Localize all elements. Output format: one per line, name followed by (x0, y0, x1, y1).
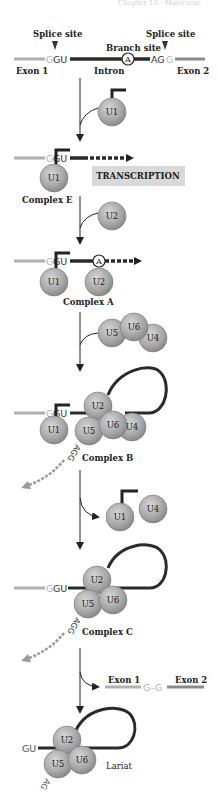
seq-gu: GU (53, 583, 67, 594)
u1-rna-tail (112, 90, 126, 98)
product-exon2-label: Exon 2 (175, 675, 207, 685)
u5-label: U5 (52, 759, 65, 769)
recruit-curve-3 (80, 333, 98, 345)
page-header-fragment: Chapter 13 · Molecular (118, 0, 201, 7)
complex-b: G GU U1 U2 U5 U4 U6 AGG Complex B (14, 368, 166, 487)
transcription-label: TRANSCRIPTION (96, 171, 180, 181)
pre-mrna: Splice site Splice site Branch site G GU… (14, 29, 209, 76)
intron-loop (108, 368, 166, 413)
u2-label: U2 (92, 401, 105, 411)
u5-label: U5 (83, 426, 96, 436)
complex-c: G GU U2 U5 U6 AGG Complex C (14, 545, 166, 660)
lariat-ag-seq: AG (39, 777, 53, 791)
splice-site-left-label: Splice site (33, 29, 83, 39)
spliceosome-assembly-diagram: Chapter 13 · Molecular Splice site Splic… (0, 0, 218, 811)
lariat-complex: GU U2 U5 U6 AG Lariat (22, 708, 135, 791)
u1-label: U1 (114, 512, 127, 522)
exon1-label: Exon 1 (16, 66, 48, 76)
splice-site-left-marker-icon (52, 41, 58, 50)
product-exon1-label: Exon 1 (108, 675, 140, 685)
branch-a-letter: A (95, 257, 102, 266)
spliced-mrna-product: Exon 1 G–G Exon 2 (105, 675, 207, 693)
seq-g-3: G (166, 54, 173, 65)
complex-c-label: Complex C (82, 627, 133, 637)
intron-label: Intron (94, 66, 124, 76)
complex-e-label: Complex E (22, 195, 73, 205)
branch-a-letter: A (124, 55, 131, 64)
u4-label: U4 (147, 504, 160, 514)
downstream-exon-arrow (24, 460, 64, 487)
lariat-label: Lariat (106, 761, 133, 771)
release-curve (80, 498, 98, 517)
u1-label: U1 (48, 277, 61, 287)
u1-label: U1 (106, 107, 119, 117)
u5-label: U5 (106, 328, 119, 338)
u1-tail (122, 491, 138, 504)
u6-label: U6 (76, 755, 89, 765)
u6-label: U6 (107, 595, 120, 605)
splice-site-right-marker-icon (162, 41, 168, 50)
u2-label: U2 (91, 575, 104, 585)
u5-label: U5 (82, 599, 95, 609)
u6-label: U6 (128, 322, 141, 332)
u1-label: U1 (48, 425, 61, 435)
seq-ag: AG (151, 54, 165, 65)
lariat-gu-seq: GU (22, 743, 36, 754)
u6-label: U6 (107, 420, 120, 430)
splice-site-right-label: Splice site (146, 29, 196, 39)
complex-a-label: Complex A (63, 297, 114, 307)
recruit-curve-2 (80, 213, 98, 228)
intron-loop (108, 545, 166, 588)
lariat-loop (76, 708, 135, 748)
u1-label: U1 (48, 173, 61, 183)
excised-agg-seq: AGG (65, 616, 82, 636)
u4-label: U4 (126, 422, 139, 432)
excised-agg-seq: AGG (65, 443, 82, 463)
branch-site-label: Branch site (106, 43, 162, 53)
product-curve (80, 672, 98, 687)
complex-a: G GU A U1 U2 Complex A (14, 253, 140, 307)
u4-label: U4 (147, 333, 160, 343)
product-junction: G–G (143, 682, 162, 693)
seq-gu: GU (53, 54, 67, 65)
downstream-exon-arrow (24, 633, 64, 660)
u2-label: U2 (106, 211, 119, 221)
exon2-label: Exon 2 (177, 66, 209, 76)
u2-label: U2 (61, 735, 74, 745)
recruit-curve-1 (80, 108, 98, 125)
complex-e: G GU U1 TRANSCRIPTION Complex E (14, 150, 185, 205)
u2-label: U2 (93, 277, 106, 287)
complex-b-label: Complex B (82, 453, 133, 463)
